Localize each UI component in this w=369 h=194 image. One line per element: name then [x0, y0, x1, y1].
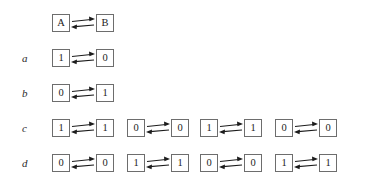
- bidirectional-equilibrium-arrows-icon: [70, 84, 96, 102]
- bidirectional-equilibrium-arrows-icon: [145, 154, 171, 172]
- state-transition-diagram: ABa10b01c11001100d00110011: [0, 0, 369, 194]
- node-box-right: 1: [96, 84, 114, 102]
- node-pair: 11: [52, 117, 114, 139]
- node-box-right: B: [96, 14, 114, 32]
- node-pair: 00: [200, 152, 262, 174]
- node-box-right: 0: [171, 119, 189, 137]
- node-box-right: 0: [319, 119, 337, 137]
- node-box-right: 0: [244, 154, 262, 172]
- node-box-right: 1: [96, 119, 114, 137]
- row-label-b: b: [22, 82, 36, 104]
- node-pair: AB: [52, 12, 114, 34]
- node-pair: 11: [275, 152, 337, 174]
- row-header: AB: [0, 12, 369, 34]
- node-box-left: 0: [200, 154, 218, 172]
- bidirectional-equilibrium-arrows-icon: [70, 154, 96, 172]
- node-box-left: A: [52, 14, 70, 32]
- node-box-left: 1: [275, 154, 293, 172]
- node-pair: 11: [127, 152, 189, 174]
- node-pair: 00: [52, 152, 114, 174]
- row-a: a10: [0, 47, 369, 69]
- node-pair: 00: [275, 117, 337, 139]
- node-box-right: 1: [244, 119, 262, 137]
- row-label-d: d: [22, 152, 36, 174]
- node-box-left: 0: [275, 119, 293, 137]
- node-pair: 00: [127, 117, 189, 139]
- node-box-left: 1: [200, 119, 218, 137]
- row-d: d00110011: [0, 152, 369, 174]
- bidirectional-equilibrium-arrows-icon: [218, 119, 244, 137]
- bidirectional-equilibrium-arrows-icon: [293, 119, 319, 137]
- bidirectional-equilibrium-arrows-icon: [145, 119, 171, 137]
- bidirectional-equilibrium-arrows-icon: [70, 49, 96, 67]
- bidirectional-equilibrium-arrows-icon: [293, 154, 319, 172]
- node-box-right: 0: [96, 49, 114, 67]
- node-box-left: 0: [52, 84, 70, 102]
- bidirectional-equilibrium-arrows-icon: [70, 119, 96, 137]
- row-label-a: a: [22, 47, 36, 69]
- bidirectional-equilibrium-arrows-icon: [218, 154, 244, 172]
- row-b: b01: [0, 82, 369, 104]
- node-box-right: 0: [96, 154, 114, 172]
- row-c: c11001100: [0, 117, 369, 139]
- node-pair: 11: [200, 117, 262, 139]
- bidirectional-equilibrium-arrows-icon: [70, 14, 96, 32]
- node-box-left: 1: [52, 119, 70, 137]
- node-box-right: 1: [171, 154, 189, 172]
- node-box-right: 1: [319, 154, 337, 172]
- node-pair: 01: [52, 82, 114, 104]
- node-box-left: 0: [127, 119, 145, 137]
- node-pair: 10: [52, 47, 114, 69]
- node-box-left: 1: [127, 154, 145, 172]
- node-box-left: 0: [52, 154, 70, 172]
- node-box-left: 1: [52, 49, 70, 67]
- row-label-c: c: [22, 117, 36, 139]
